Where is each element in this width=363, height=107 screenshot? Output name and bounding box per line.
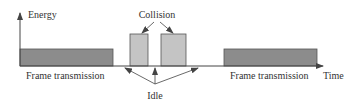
idle-arrow-1 (125, 68, 155, 84)
frame-label-1: Frame transmission (26, 70, 105, 81)
frame-block-2 (224, 49, 317, 66)
frame-block-1 (20, 49, 113, 66)
energy-time-diagram: Energy Collision Frame transmission Fram… (0, 0, 363, 107)
collision-block-1 (130, 34, 148, 66)
collision-arrow-1 (142, 22, 154, 33)
idle-arrow-3 (155, 68, 198, 84)
frame-label-2: Frame transmission (230, 70, 309, 81)
collision-arrow-2 (160, 22, 173, 33)
y-axis-label: Energy (28, 9, 57, 20)
collision-label: Collision (139, 9, 176, 20)
idle-label: Idle (147, 90, 163, 101)
collision-block-2 (161, 34, 186, 66)
x-axis-label: Time (323, 70, 344, 81)
